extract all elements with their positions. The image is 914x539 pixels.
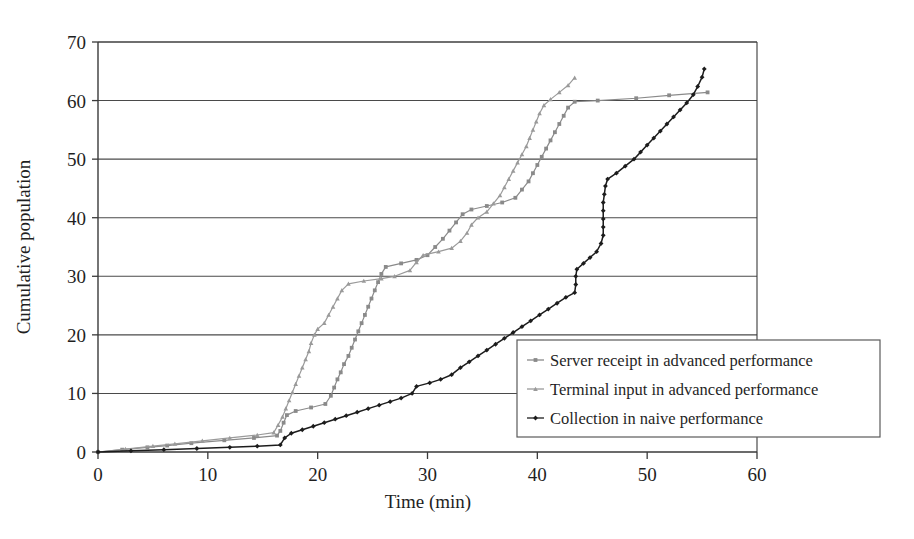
series-0-marker-13 [323, 402, 327, 406]
series-0-marker-16 [336, 377, 340, 381]
x-tick-label-30: 30 [418, 464, 437, 485]
y-tick-label-0: 0 [77, 442, 87, 463]
series-0-marker-35 [441, 237, 445, 241]
series-0-marker-22 [356, 329, 360, 333]
y-tick-label-30: 30 [67, 266, 86, 287]
series-0-marker-51 [557, 122, 561, 126]
legend-item-0[interactable]: Server receipt in advanced performance [527, 351, 813, 370]
series-0-marker-44 [527, 180, 531, 184]
series-0-marker-45 [531, 171, 535, 175]
series-0-marker-17 [339, 370, 343, 374]
y-tick-label-70: 70 [67, 32, 86, 53]
series-0-marker-55 [596, 99, 600, 103]
series-0-marker-26 [370, 297, 374, 301]
y-tick-label-20: 20 [67, 325, 86, 346]
series-0-marker-41 [500, 201, 504, 205]
x-tick-label-40: 40 [528, 464, 547, 485]
chart-background [0, 0, 914, 539]
legend-label-1: Terminal input in advanced performance [550, 380, 818, 399]
x-axis-title: Time (min) [385, 491, 471, 513]
series-0-marker-54 [573, 100, 577, 104]
series-0-marker-48 [544, 147, 548, 151]
series-0-marker-19 [347, 354, 351, 358]
x-tick-label-0: 0 [93, 464, 103, 485]
series-0-marker-18 [342, 362, 346, 366]
series-0-marker-38 [461, 212, 465, 216]
series-0-marker-28 [376, 280, 380, 284]
series-0-marker-14 [329, 394, 333, 398]
series-0-marker-12 [309, 406, 313, 410]
legend-swatch-marker-0 [534, 358, 538, 362]
series-0-marker-53 [566, 106, 570, 110]
series-0-marker-10 [285, 413, 289, 417]
series-0-marker-21 [353, 338, 357, 342]
legend-label-0: Server receipt in advanced performance [550, 351, 813, 370]
series-0-marker-36 [448, 229, 452, 233]
series-0-marker-9 [282, 421, 286, 425]
series-0-marker-27 [373, 288, 377, 292]
series-0-marker-47 [540, 155, 544, 159]
legend-item-2[interactable]: Collection in naive performance [527, 409, 763, 428]
series-0-marker-57 [667, 93, 671, 97]
series-0-marker-8 [278, 429, 282, 433]
series-0-marker-42 [513, 196, 517, 200]
y-tick-label-40: 40 [67, 208, 86, 229]
x-tick-label-10: 10 [198, 464, 217, 485]
y-tick-label-50: 50 [67, 149, 86, 170]
series-0-marker-20 [350, 346, 354, 350]
chart-legend: Server receipt in advanced performanceTe… [517, 340, 880, 437]
x-tick-label-50: 50 [638, 464, 657, 485]
y-axis-title: Cumulative population [13, 159, 34, 334]
series-0-marker-30 [384, 265, 388, 269]
series-0-marker-29 [379, 272, 383, 276]
y-tick-label-10: 10 [67, 383, 86, 404]
series-0-marker-52 [562, 114, 566, 118]
series-0-marker-40 [485, 204, 489, 208]
series-0-marker-58 [706, 90, 710, 94]
series-0-marker-37 [454, 221, 458, 225]
legend-label-2: Collection in naive performance [550, 409, 763, 428]
series-0-marker-24 [363, 313, 367, 317]
series-0-marker-50 [553, 130, 557, 134]
series-0-marker-25 [366, 305, 370, 309]
series-0-marker-49 [549, 139, 553, 143]
y-tick-label-60: 60 [67, 91, 86, 112]
x-tick-label-20: 20 [308, 464, 327, 485]
series-0-marker-23 [360, 321, 364, 325]
series-0-marker-46 [535, 163, 539, 167]
series-0-marker-56 [634, 96, 638, 100]
series-0-marker-43 [520, 188, 524, 192]
series-0-marker-39 [470, 208, 474, 212]
x-tick-label-60: 60 [748, 464, 767, 485]
chart-figure: 010203040506070 0102030405060 Cumulative… [0, 0, 914, 539]
series-0-marker-34 [433, 245, 437, 249]
series-0-marker-11 [294, 409, 298, 413]
series-0-marker-15 [332, 386, 336, 390]
series-0-marker-31 [399, 262, 403, 266]
cumulative-population-line-chart: 010203040506070 0102030405060 Cumulative… [0, 0, 914, 539]
legend-item-1[interactable]: Terminal input in advanced performance [527, 380, 818, 399]
